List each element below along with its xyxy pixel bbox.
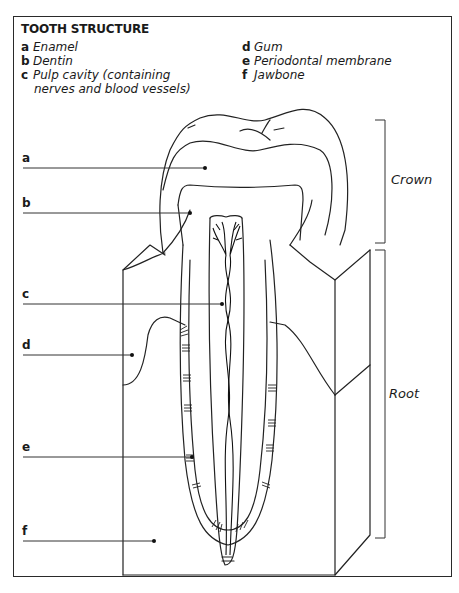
brackets [375, 120, 385, 538]
label-d: d [22, 338, 31, 352]
label-c: c [22, 287, 29, 301]
dentin-outline [163, 141, 332, 235]
gum [123, 200, 335, 395]
periodontal-hatching [180, 326, 276, 532]
enamel-outline [160, 109, 348, 253]
tooth-illustration [0, 0, 459, 593]
label-e: e [22, 440, 30, 454]
pulp-chamber [178, 185, 303, 240]
nerves-blood-vessels [213, 222, 242, 555]
label-b: b [22, 196, 31, 210]
region-root: Root [389, 386, 419, 401]
jawbone-block [123, 245, 370, 575]
region-crown: Crown [391, 172, 432, 187]
label-a: a [22, 151, 30, 165]
label-f: f [22, 524, 27, 538]
